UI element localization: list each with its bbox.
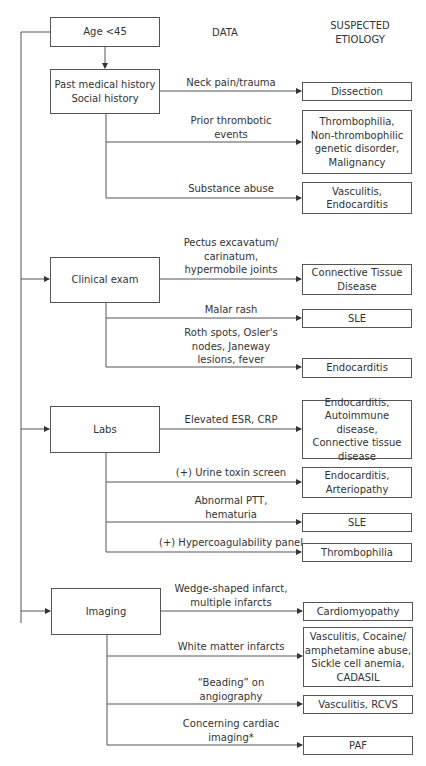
etiology-box: Vasculitis, RCVS	[303, 695, 413, 714]
labs-box: Labs	[50, 406, 160, 453]
etiology-box: Connective Tissue Disease	[302, 264, 412, 295]
branch-label: Prior thrombotic events	[170, 114, 292, 141]
etiology-box: SLE	[302, 513, 412, 532]
branch-label: Malar rash	[170, 303, 292, 317]
branch-label: White matter infarcts	[170, 640, 292, 654]
branch-label: Substance abuse	[170, 182, 292, 196]
branch-label: Neck pain/trauma	[170, 76, 292, 90]
etiology-box: Dissection	[302, 82, 412, 101]
etiology-box: Endocarditis	[302, 358, 412, 378]
branch-label: Roth spots, Osler's nodes, Janeway lesio…	[170, 326, 292, 367]
branch-label: Abnormal PTT, hematuria	[170, 494, 292, 521]
etiology-column-header: SUSPECTED ETIOLOGY	[315, 19, 405, 46]
past-medical-history-box: Past medical history Social history	[50, 69, 160, 114]
branch-label: Concerning cardiac imaging*	[170, 717, 292, 744]
etiology-box: Thrombophilia, Non-thrombophilic genetic…	[302, 110, 412, 174]
etiology-box: Vasculitis, Cocaine/ amphetamine abuse, …	[303, 627, 413, 687]
branch-label: (+) Urine toxin screen	[170, 466, 292, 480]
etiology-box: Cardiomyopathy	[303, 602, 413, 621]
branch-label: Pectus excavatum/ carinatum, hypermobile…	[170, 236, 292, 277]
age-box: Age <45	[50, 17, 160, 47]
etiology-box: Endocarditis, Autoimmune disease, Connec…	[302, 400, 412, 459]
etiology-box: Endocarditis, Arteriopathy	[302, 467, 412, 498]
etiology-box: Vasculitis, Endocarditis	[302, 182, 412, 214]
branch-label: “Beading” on angiography	[170, 676, 292, 703]
clinical-exam-box: Clinical exam	[50, 257, 160, 303]
branch-label: (+) Hypercoagulability panel	[158, 536, 304, 550]
imaging-box: Imaging	[51, 588, 161, 635]
etiology-box: Thrombophilia	[302, 543, 412, 562]
branch-label: Elevated ESR, CRP	[170, 413, 292, 427]
etiology-box: SLE	[302, 309, 412, 328]
branch-label: Wedge-shaped infarct, multiple infarcts	[170, 582, 292, 609]
etiology-box: PAF	[303, 736, 413, 755]
data-column-header: DATA	[200, 26, 250, 40]
